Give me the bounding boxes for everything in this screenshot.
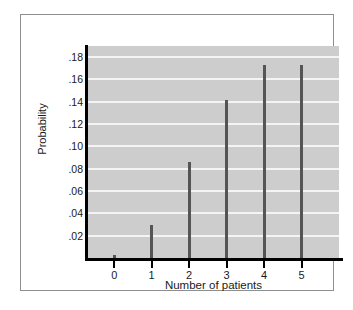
y-axis-ticks: .18.16.14.12.10.08.06.04.02 (47, 46, 83, 258)
y-axis-line (85, 45, 88, 260)
y-tick-label: .06 (53, 186, 83, 196)
x-axis-title: Number of patients (88, 279, 339, 291)
y-tick-label: .08 (53, 164, 83, 174)
y-tick-label: .10 (53, 141, 83, 151)
x-tick-mark (113, 261, 115, 268)
bar (300, 65, 303, 258)
y-axis-title: Probability (36, 79, 48, 179)
y-tick-label: .18 (53, 52, 83, 62)
bar (225, 100, 228, 258)
x-tick-mark (151, 261, 153, 268)
x-tick-mark (226, 261, 228, 268)
y-tick-label: .16 (53, 74, 83, 84)
y-tick-label: .04 (53, 208, 83, 218)
y-tick-label: .14 (53, 97, 83, 107)
bar (188, 162, 191, 258)
x-tick-mark (188, 261, 190, 268)
figure-frame: .18.16.14.12.10.08.06.04.02 012345 Proba… (20, 14, 334, 291)
x-tick-mark (263, 261, 265, 268)
y-tick-label: .12 (53, 119, 83, 129)
bar (150, 225, 153, 258)
x-tick-mark (301, 261, 303, 268)
gridline (88, 56, 339, 58)
plot-area (88, 46, 339, 258)
y-tick-label: .02 (53, 231, 83, 241)
figure: .18.16.14.12.10.08.06.04.02 012345 Proba… (0, 0, 353, 310)
bar (263, 65, 266, 258)
